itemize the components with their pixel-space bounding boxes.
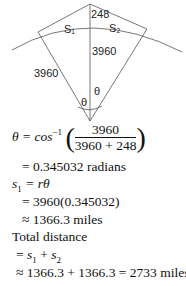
height-label: 248 [91,8,109,20]
s2-label: S₂ [109,22,121,34]
geometry-diagram: 248 S₁ S₂ 3960 3960 θ θ [0,0,186,122]
theta-right-label: θ [94,85,100,97]
radius-left-label: 3960 [34,67,58,79]
theta-left-label: θ [81,96,87,108]
theta-value: = 0.345032 radians [22,158,126,175]
total-result: ≈ 1366.3 + 1366.3 = 2733 miles [16,264,186,281]
s1-result: ≈ 1366.3 miles [22,211,103,228]
fraction: 39603960 + 248 [75,122,137,153]
total-distance-heading: Total distance [12,228,87,245]
theta-equation: θ = cos−1 (39603960 + 248) [12,122,146,153]
s1-label: S₁ [64,23,75,35]
radius-center-label: 3960 [92,45,116,57]
s1-substitution: = 3960(0.345032) [22,193,120,210]
